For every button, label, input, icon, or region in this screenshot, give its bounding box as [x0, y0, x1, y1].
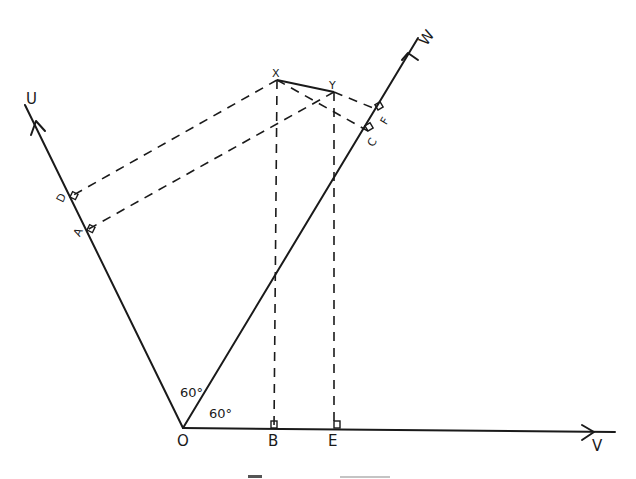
origin-label: O: [177, 432, 189, 450]
axis-u-line: [25, 105, 183, 428]
projection-y-to-a: [87, 92, 334, 230]
foot-a-label: A: [71, 226, 86, 239]
axis-v-label: V: [592, 437, 603, 455]
angle-uw-label: 60°: [180, 385, 203, 400]
angle-wv-label: 60°: [209, 406, 232, 421]
projection-x-to-d: [70, 80, 277, 197]
segment-xy: [277, 80, 334, 92]
axis-u-label: U: [26, 90, 37, 108]
projection-y-to-f: [334, 92, 378, 110]
caption-fragment: [248, 475, 262, 478]
point-y-label: Y: [328, 79, 336, 92]
foot-c-label: C: [365, 135, 380, 149]
foot-f-label: F: [378, 115, 392, 127]
foot-d-label: D: [54, 191, 69, 204]
projection-x-to-c: [277, 80, 368, 131]
axis-v-line: [183, 428, 615, 432]
projection-x-to-b: [274, 80, 277, 428]
projection-diagram: U W V O 60° 60° X Y D A C F B E: [0, 0, 636, 479]
right-angle-marker-e: [334, 421, 340, 428]
axis-w-label: W: [415, 26, 438, 49]
axis-w-line: [183, 38, 418, 428]
caption-fragment: [340, 476, 390, 478]
foot-e-label: E: [328, 432, 337, 450]
point-x-label: X: [272, 67, 280, 80]
foot-b-label: B: [268, 432, 278, 450]
